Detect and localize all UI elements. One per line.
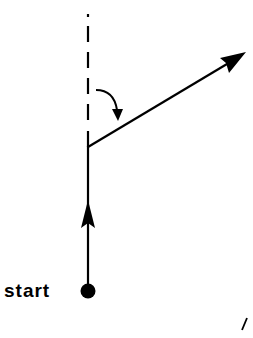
start-label: start (4, 280, 50, 302)
turn-arrowhead-icon (112, 109, 123, 121)
turn-angle-arrow (96, 90, 117, 110)
direction-arrowhead-icon (220, 52, 246, 73)
start-point (81, 284, 96, 299)
stray-mark (242, 318, 247, 330)
turned-direction-arrow (88, 61, 232, 147)
